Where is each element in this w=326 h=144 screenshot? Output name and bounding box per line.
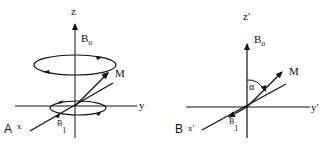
rf-field-vector xyxy=(229,107,247,117)
precession-arrow-icon xyxy=(43,70,50,74)
y-axis-label: y′ xyxy=(311,101,319,113)
x-axis-label: x xyxy=(17,121,22,131)
magnetization-label: M xyxy=(289,65,299,77)
x-axis xyxy=(30,83,113,131)
panel-a: z Bo M y x B1 A xyxy=(4,5,145,138)
x-axis-label: x′ xyxy=(188,123,195,133)
z-axis-label: z′ xyxy=(243,10,250,22)
magnetization-label: M xyxy=(115,67,125,79)
panel-b: z′ Bo M α y′ x′ B1 B xyxy=(175,10,319,138)
field-label: Bo xyxy=(254,33,265,48)
angle-label: α xyxy=(249,81,255,92)
panel-label: B xyxy=(175,122,183,136)
z-axis-label: z xyxy=(71,5,76,17)
panel-label: A xyxy=(4,122,12,136)
rf-label: B1 xyxy=(57,119,66,135)
field-label: Bo xyxy=(81,32,92,47)
rf-label: B1 xyxy=(229,117,238,133)
y-axis-label: y xyxy=(139,99,145,111)
diagram-canvas: z Bo M y x B1 A z′ Bo M α y′ x′ B1 B xyxy=(0,0,326,144)
